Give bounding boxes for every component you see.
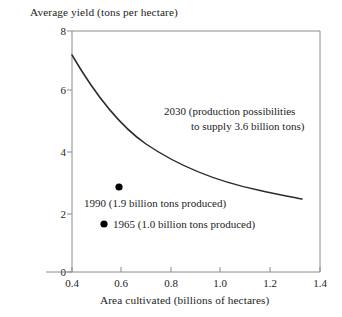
data-point-label-1990: 1990 (1.9 billion tons produced) <box>84 196 226 211</box>
curve-annotation: 2030 (production possibilities to supply… <box>164 104 304 133</box>
x-axis-title: Area cultivated (billions of hectares) <box>100 294 269 306</box>
curve-annotation-line1: 2030 (production possibilities <box>164 105 295 117</box>
data-point-1990-marker <box>115 183 122 190</box>
chart-figure: Average yield (tons per hectare) 8 6 4 2… <box>0 0 342 317</box>
plot-area <box>0 0 342 317</box>
data-point-label-1965: 1965 (1.0 billion tons produced) <box>113 217 255 232</box>
curve-annotation-line2: to supply 3.6 billion tons) <box>164 119 304 134</box>
data-point-1965-marker <box>100 220 107 227</box>
